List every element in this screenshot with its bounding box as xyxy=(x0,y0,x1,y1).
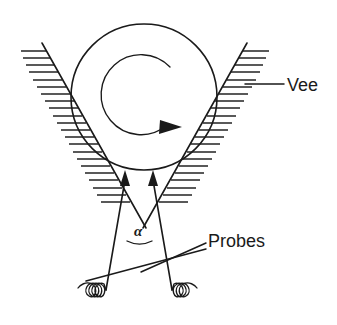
angle-arc xyxy=(127,241,152,244)
spring-right xyxy=(172,283,197,297)
technical-diagram: Vee Probes α xyxy=(0,0,337,325)
vee-left-wall-line xyxy=(42,43,146,228)
probes-leader-lower xyxy=(86,249,206,281)
vee-left-wall-group xyxy=(21,43,146,228)
angle-label: α xyxy=(134,223,143,239)
cylinder-outline xyxy=(71,24,217,170)
probes-label: Probes xyxy=(208,231,265,251)
vee-label: Vee xyxy=(287,75,318,95)
vee-right-wall-line xyxy=(143,43,247,228)
vee-block-probe-diagram: Vee Probes α xyxy=(0,0,337,325)
spring-left xyxy=(78,283,106,297)
rotation-arrow xyxy=(101,55,182,135)
